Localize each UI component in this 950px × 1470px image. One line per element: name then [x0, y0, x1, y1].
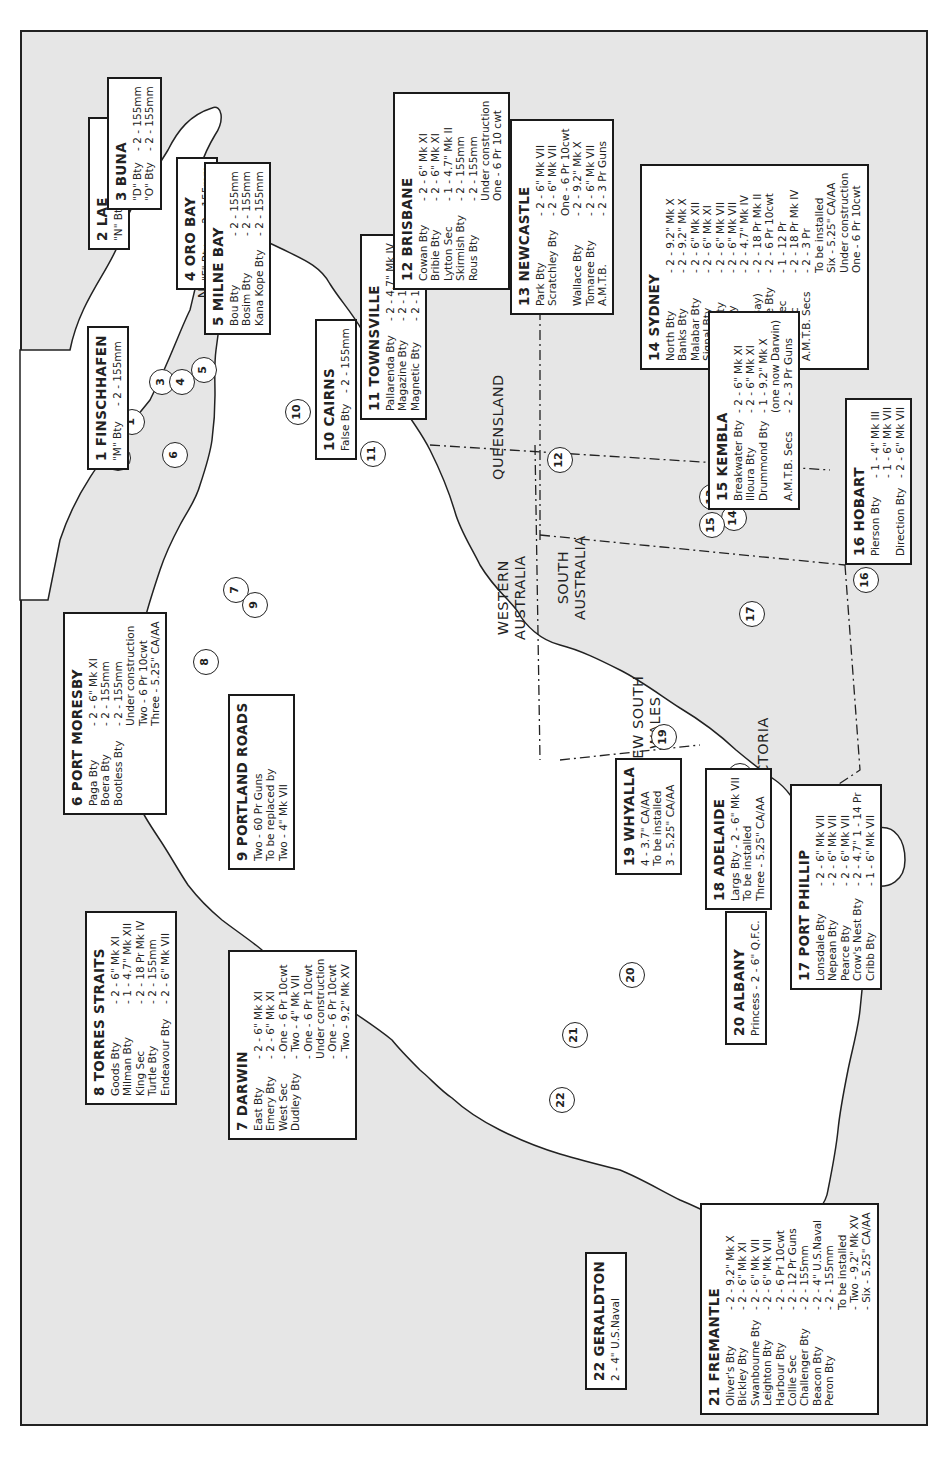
- box-albany: 20 ALBANY Princess - 2 - 6" Q.F.C.: [725, 911, 767, 1045]
- marker-15[interactable]: 15: [699, 512, 725, 538]
- box-title: 1 FINSCHHAFEN: [93, 335, 110, 461]
- marker-12[interactable]: 12: [547, 447, 573, 473]
- box-geraldton: 22 GERALDTON 2 - 4" U.S.Naval: [585, 1252, 627, 1390]
- box-port-moresby: 6 PORT MORESBY Paga Bty- 2 - 6" Mk XI Bo…: [63, 612, 167, 815]
- marker-6[interactable]: 6: [162, 442, 188, 468]
- marker-16[interactable]: 16: [853, 567, 879, 593]
- box-portland-roads: 9 PORTLAND ROADS Two - 60 Pr Guns To be …: [228, 694, 295, 870]
- region-south-australia: SOUTHAUSTRALIA: [555, 535, 589, 620]
- box-adelaide: 18 ADELAIDE Largs Bty - 2 - 6" Mk VII To…: [705, 768, 772, 910]
- box-whyalla: 19 WHYALLA 4 - 3.7" CA/AA To be installe…: [615, 758, 682, 875]
- box-torres-straits: 8 TORRES STRAITS Goods Bty- 2 - 6" Mk XI…: [85, 911, 177, 1105]
- box-finschhafen: 1 FINSCHHAFEN "M" Bty- 2 - 155mm: [87, 326, 129, 470]
- box-cairns: 10 CAIRNS False Bty- 2 - 155mm: [315, 319, 357, 460]
- marker-5[interactable]: 5: [191, 357, 217, 383]
- box-darwin: 7 DARWIN East Bty- 2 - 6" Mk XI Emery Bt…: [228, 950, 357, 1140]
- marker-19[interactable]: 19: [651, 724, 677, 750]
- marker-22[interactable]: 22: [549, 1087, 575, 1113]
- marker-17[interactable]: 17: [739, 601, 765, 627]
- region-new-south-wales: NEW SOUTHWALES: [630, 676, 664, 770]
- border-sa-east: [800, 565, 860, 810]
- box-fremantle: 21 FREMANTLE Oliver's Bty- 2 - 9.2" Mk X…: [700, 1203, 879, 1415]
- marker-20[interactable]: 20: [619, 962, 645, 988]
- box-newcastle: 13 NEWCASTLE Park Bty- 2 - 6" Mk VII Scr…: [510, 119, 614, 315]
- box-milne-bay: 5 MILNE BAY Bou Bty- 2 - 155mm Bosim Bty…: [204, 162, 271, 335]
- box-buna: 3 BUNA "D" Bty- 2 - 155mm "O" Bty- 2 - 1…: [107, 77, 162, 210]
- box-kembla: 15 KEMBLA Breakwater Bty- 2 - 6" Mk XI I…: [708, 311, 800, 510]
- box-port-phillip: 17 PORT PHILLIP Lonsdale Bty- 2 - 6" Mk …: [790, 784, 882, 990]
- marker-11[interactable]: 11: [360, 441, 386, 467]
- region-queensland: QUEENSLAND: [490, 374, 507, 480]
- marker-10[interactable]: 10: [285, 399, 311, 425]
- box-brisbane: 12 BRISBANE Cowan Bty- 2 - 6" Mk XI Brib…: [393, 92, 510, 290]
- box-hobart: 16 HOBART Pierson Bty- 1 - 4" Mk III - 1…: [845, 398, 912, 565]
- marker-21[interactable]: 21: [562, 1022, 588, 1048]
- marker-8[interactable]: 8: [193, 649, 219, 675]
- rotated-map-stage: NEWGUINEA QUEENSLAND NORTHERNTERRITORY W…: [0, 0, 950, 1470]
- marker-9[interactable]: 9: [242, 592, 268, 618]
- region-western-australia: WESTERNAUSTRALIA: [495, 555, 529, 640]
